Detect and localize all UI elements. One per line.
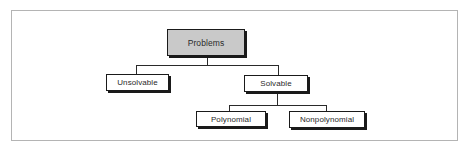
node-solvable: Solvable [244,75,308,92]
node-unsolvable: Unsolvable [106,74,169,91]
node-polynomial-label: Polynomial [211,115,251,124]
node-unsolvable-label: Unsolvable [117,78,158,87]
node-polynomial: Polynomial [196,111,266,127]
connector-solvable-up [278,65,279,75]
connector-solvable-down [277,94,278,105]
connector-level1-horizontal [136,65,279,66]
node-problems: Problems [167,29,245,56]
node-nonpolynomial-label: Nonpolynomial [300,115,354,124]
connector-unsolvable-up [136,65,137,74]
node-problems-label: Problems [188,38,225,48]
node-solvable-label: Solvable [260,79,292,88]
connector-level2-horizontal [229,105,327,106]
node-nonpolynomial: Nonpolynomial [289,111,365,128]
